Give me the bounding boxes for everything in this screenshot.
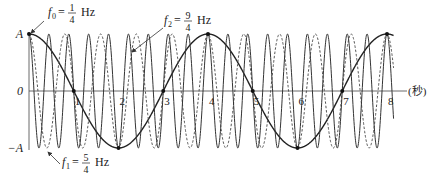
y-tick-label: −A	[8, 141, 24, 155]
data-point	[206, 32, 210, 36]
svg-text:5: 5	[84, 152, 89, 163]
arrow-icon	[132, 28, 163, 52]
x-axis-label: (秒)	[408, 84, 427, 98]
x-tick-label: 3	[164, 95, 170, 107]
y-tick-label: 0	[17, 84, 23, 98]
svg-text:=: =	[58, 5, 65, 19]
data-point	[161, 89, 165, 93]
svg-text:Hz: Hz	[95, 155, 109, 169]
svg-text:Hz: Hz	[197, 13, 211, 27]
svg-text:4: 4	[84, 164, 89, 175]
svg-text:4: 4	[70, 14, 75, 25]
svg-text:9: 9	[186, 10, 191, 21]
x-tick-label: 7	[343, 95, 349, 107]
data-point	[117, 146, 121, 150]
svg-text:=: =	[72, 155, 79, 169]
svg-text:2: 2	[168, 20, 172, 29]
chart: 12345678A0−A f0=14Hzf2=94Hzf1=54Hz (秒)	[0, 0, 437, 183]
svg-text:=: =	[174, 13, 181, 27]
x-tick-label: 5	[254, 95, 260, 107]
data-point	[340, 89, 344, 93]
arrow-icon	[31, 21, 44, 33]
data-point	[72, 89, 76, 93]
data-point	[251, 89, 255, 93]
data-point	[296, 146, 300, 150]
y-tick-label: A	[15, 27, 24, 41]
data-point	[27, 32, 31, 36]
data-point	[385, 32, 389, 36]
arrow-icon	[48, 152, 60, 164]
svg-text:1: 1	[70, 2, 75, 13]
annotation-f1: f1=54Hz	[48, 152, 109, 175]
annotation-f2: f2=94Hz	[132, 10, 211, 52]
svg-text:4: 4	[186, 22, 191, 33]
svg-text:1: 1	[66, 162, 70, 171]
svg-text:Hz: Hz	[81, 5, 95, 19]
annotations: f0=14Hzf2=94Hzf1=54Hz	[31, 2, 211, 175]
annotation-f0: f0=14Hz	[31, 2, 95, 33]
svg-text:0: 0	[52, 12, 56, 21]
